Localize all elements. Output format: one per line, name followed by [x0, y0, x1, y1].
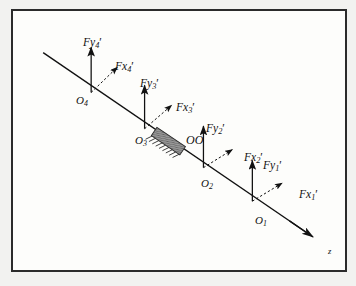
- label-fx2: Fx2′: [244, 152, 263, 166]
- figure-frame-border: Fy4′ Fx4′ O4 Fy3′ Fx3′ O3 OO Fy2′ Fx2′ O…: [11, 9, 347, 272]
- figure-root: Fy4′ Fx4′ O4 Fy3′ Fx3′ O3 OO Fy2′ Fx2′ O…: [0, 0, 356, 286]
- fx3-arrow: [145, 105, 172, 129]
- bearing-support-block: [146, 126, 186, 160]
- label-o4: O4: [76, 95, 88, 108]
- force-arrow-group-o3: [145, 85, 172, 128]
- label-oo-support: OO: [186, 134, 203, 146]
- label-o2: O2: [201, 178, 213, 191]
- force-arrow-group-o4: [91, 47, 117, 92]
- label-o1: O1: [255, 215, 267, 228]
- fx1-arrow: [252, 183, 282, 201]
- label-fy2: Fy2′: [206, 123, 225, 137]
- label-fx1: Fx1′: [299, 189, 318, 203]
- label-fy4: Fy4′: [83, 37, 102, 51]
- label-fy1: Fy1′: [263, 160, 282, 174]
- label-o3: O3: [135, 135, 147, 148]
- label-fy3: Fy3′: [140, 78, 159, 92]
- diagram-canvas: [13, 11, 345, 270]
- label-z-axis: z: [328, 247, 331, 256]
- fx2-arrow: [203, 150, 232, 168]
- fx4-arrow: [91, 67, 117, 92]
- label-fx4: Fx4′: [115, 61, 134, 75]
- label-fx3: Fx3′: [176, 102, 195, 116]
